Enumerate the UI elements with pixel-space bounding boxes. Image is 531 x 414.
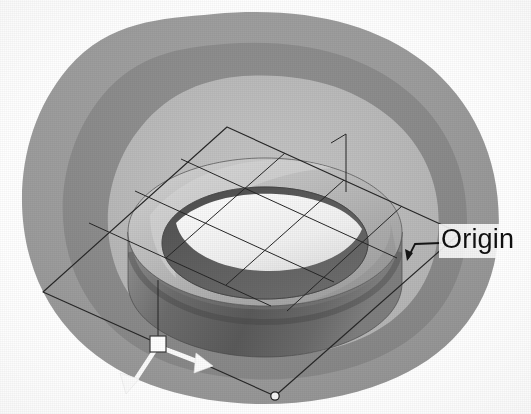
sketch-vertex-circle-icon[interactable]	[271, 392, 279, 400]
origin-square-handle-icon[interactable]	[150, 336, 166, 352]
origin-label: Origin	[441, 226, 514, 253]
cad-viewport: Origin	[0, 0, 531, 414]
three-d-scene	[0, 0, 531, 414]
